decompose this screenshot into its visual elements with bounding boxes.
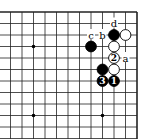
go-board-diagram: dcba 231 bbox=[0, 0, 143, 139]
marker-label-a: a bbox=[123, 53, 129, 64]
move-number-2: 2 bbox=[111, 53, 117, 63]
marker-label-d: d bbox=[111, 18, 118, 29]
position-markers: dcba bbox=[87, 18, 130, 64]
black-stone bbox=[109, 30, 120, 41]
star-point bbox=[101, 114, 105, 118]
white-stone bbox=[109, 64, 120, 75]
marker-label-c: c bbox=[88, 30, 94, 41]
star-point bbox=[32, 45, 36, 49]
white-stone bbox=[109, 41, 120, 52]
black-stone bbox=[97, 64, 108, 75]
move-number-1: 1 bbox=[111, 76, 117, 86]
white-stone bbox=[120, 30, 131, 41]
move-number-3: 3 bbox=[99, 76, 105, 86]
marker-label-b: b bbox=[99, 30, 105, 41]
star-point bbox=[32, 114, 36, 118]
black-stone bbox=[86, 41, 97, 52]
